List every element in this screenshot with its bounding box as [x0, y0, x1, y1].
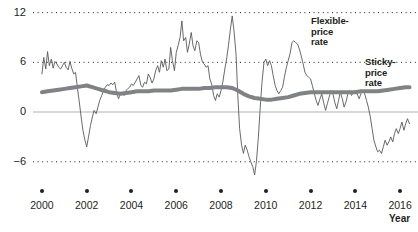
x-tick-label-2002: 2002: [67, 199, 107, 211]
flexible-price-annotation: Flexible-pricerate: [311, 16, 349, 48]
x-tick-label-2000: 2000: [22, 199, 62, 211]
x-tick-label-2016: 2016: [380, 199, 418, 211]
sticky-price-line: [42, 86, 410, 100]
flexible-price-line: [42, 16, 410, 175]
chart-plot-area: [0, 0, 418, 232]
flexible-price-annotation-line: rate: [311, 37, 349, 48]
flexible-price-annotation-line: Flexible-: [311, 16, 349, 27]
x-tick-label-2014: 2014: [335, 199, 375, 211]
sticky-price-annotation: Sticky-pricerate: [365, 57, 395, 89]
x-tick-label-2008: 2008: [201, 199, 241, 211]
sticky-price-annotation-line: Sticky-: [365, 57, 395, 68]
sticky-price-annotation-line: rate: [365, 78, 395, 89]
x-tick-dot-2002: [85, 189, 89, 193]
x-tick-dot-2010: [264, 189, 268, 193]
y-tick-label-0: 0: [0, 105, 26, 117]
y-tick-label-6: 6: [0, 55, 26, 67]
x-axis-title: Year: [389, 213, 410, 224]
x-tick-dot-2012: [309, 189, 313, 193]
x-tick-label-2006: 2006: [156, 199, 196, 211]
y-tick-label-neg6: −6: [0, 155, 26, 167]
x-tick-label-2010: 2010: [246, 199, 286, 211]
series-lines: [42, 16, 410, 175]
x-tick-label-2004: 2004: [111, 199, 151, 211]
y-tick-label-12: 12: [0, 6, 26, 18]
chart-container: 1260−6 200020022004200620082010201220142…: [0, 0, 418, 232]
x-tick-label-2012: 2012: [291, 199, 331, 211]
x-tick-dot-2000: [40, 189, 44, 193]
x-tick-dot-2008: [219, 189, 223, 193]
